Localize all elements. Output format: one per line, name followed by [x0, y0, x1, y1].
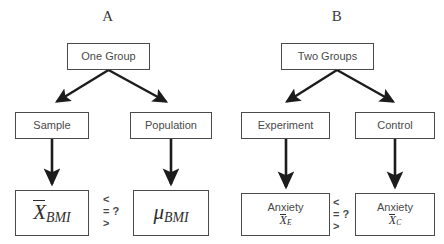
comparison-operators-panel-a: < = ? > — [103, 193, 119, 229]
node-sample-mean-bmi: XBMI — [15, 190, 89, 236]
node-control-label: Control — [377, 119, 412, 132]
node-sample: Sample — [15, 112, 89, 139]
x-bar-subscript: BMI — [46, 210, 71, 225]
comparison-greater-a: > — [103, 217, 119, 229]
mu-symbol: μ — [153, 200, 164, 224]
comparison-less-b: < — [333, 196, 349, 208]
overbar — [33, 200, 45, 201]
node-one-group-label: One Group — [81, 50, 135, 63]
anxiety-control-mean-expression: XC — [389, 214, 401, 228]
comparison-equal-a: = ? — [103, 205, 119, 217]
overbar — [280, 214, 287, 215]
node-population: Population — [130, 112, 212, 139]
node-experiment-label: Experiment — [258, 119, 314, 132]
node-population-mean-bmi: μBMI — [133, 190, 209, 236]
x-bar-symbol: X — [33, 200, 46, 224]
x-bar-letter: X — [33, 200, 46, 224]
panel-label-b: B — [317, 8, 357, 25]
node-anxiety-experiment-mean: Anxiety XE — [241, 193, 330, 236]
panel-label-a: A — [88, 8, 128, 25]
overbar — [389, 214, 396, 215]
arrow-one-group-to-sample — [57, 70, 109, 102]
x-bar-subscript-experiment: E — [287, 218, 292, 227]
node-two-groups-label: Two Groups — [298, 50, 357, 63]
node-anxiety-control-mean: Anxiety XC — [355, 193, 435, 236]
comparison-equal-b: = ? — [333, 208, 349, 220]
arrow-two-groups-to-experiment — [287, 70, 337, 102]
node-experiment: Experiment — [241, 112, 330, 139]
mu-bmi-expression: μBMI — [153, 200, 188, 226]
anxiety-experiment-mean-expression: XE — [280, 214, 292, 228]
figure-canvas: A One Group Sample Population XBMI < = ?… — [0, 0, 444, 244]
node-two-groups: Two Groups — [281, 43, 374, 70]
comparison-less-a: < — [103, 193, 119, 205]
sample-mean-bmi-expression: XBMI — [33, 200, 70, 226]
node-control: Control — [355, 112, 435, 139]
x-bar-symbol-experiment: X — [280, 214, 287, 228]
x-bar-symbol-control: X — [389, 214, 396, 228]
node-sample-label: Sample — [33, 119, 70, 132]
arrow-two-groups-to-control — [337, 70, 393, 102]
mu-subscript: BMI — [164, 210, 189, 225]
x-bar-subscript-control: C — [396, 218, 401, 227]
node-population-label: Population — [145, 119, 197, 132]
arrow-one-group-to-population — [109, 70, 167, 102]
comparison-greater-b: > — [333, 220, 349, 232]
comparison-operators-panel-b: < = ? > — [333, 196, 349, 232]
node-one-group: One Group — [67, 43, 150, 70]
